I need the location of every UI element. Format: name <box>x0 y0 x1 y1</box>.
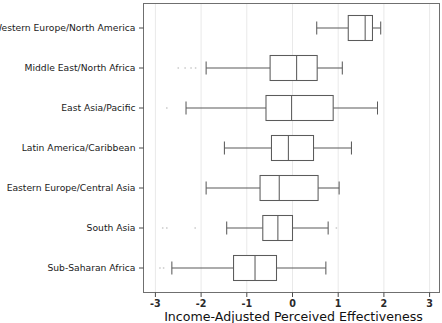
outlier-point-0 <box>177 67 179 69</box>
xtick-label-4: 1 <box>335 298 342 309</box>
boxplot-group <box>177 56 342 81</box>
outlier-point-3 <box>335 227 337 229</box>
boxplot-group <box>224 136 351 161</box>
xtick-label-3: 0 <box>289 298 296 309</box>
xaxis-title: Income-Adjusted Perceived Effectiveness <box>164 309 423 323</box>
outlier-point-0 <box>166 107 168 109</box>
ytick-label-1: Middle East/North Africa <box>24 62 135 73</box>
xtick-label-6: 3 <box>426 298 433 309</box>
boxplot-group <box>162 216 337 241</box>
ytick-label-4: Eastern Europe/Central Asia <box>7 182 136 193</box>
outlier-point-2 <box>194 227 196 229</box>
iqr-box <box>266 96 333 121</box>
outlier-point-0 <box>162 227 164 229</box>
xtick-label-1: -2 <box>196 298 207 309</box>
boxplot-group <box>159 256 326 281</box>
boxplot-canvas: Western Europe/North AmericaMiddle East/… <box>0 0 442 323</box>
ytick-label-2: East Asia/Pacific <box>61 102 135 113</box>
boxplot-figure: Western Europe/North AmericaMiddle East/… <box>0 0 442 323</box>
boxplot-group <box>317 16 381 41</box>
outlier-point-1 <box>184 67 186 69</box>
boxplot-group <box>206 176 339 201</box>
xtick-label-0: -3 <box>150 298 161 309</box>
outlier-point-3 <box>195 67 197 69</box>
ytick-label-6: Sub-Saharan Africa <box>47 262 135 273</box>
boxplot-group <box>166 96 378 121</box>
outlier-point-1 <box>166 227 168 229</box>
ytick-label-5: South Asia <box>87 222 136 233</box>
xtick-label-2: -1 <box>241 298 252 309</box>
iqr-box <box>348 16 372 41</box>
xtick-label-5: 2 <box>381 298 388 309</box>
iqr-box <box>270 56 317 81</box>
outlier-point-2 <box>190 67 192 69</box>
iqr-box <box>260 176 318 201</box>
outlier-point-1 <box>163 267 165 269</box>
iqr-box <box>271 136 313 161</box>
ytick-label-3: Latin America/Caribbean <box>22 142 136 153</box>
outlier-point-0 <box>159 267 161 269</box>
ytick-label-0: Western Europe/North America <box>0 22 136 33</box>
